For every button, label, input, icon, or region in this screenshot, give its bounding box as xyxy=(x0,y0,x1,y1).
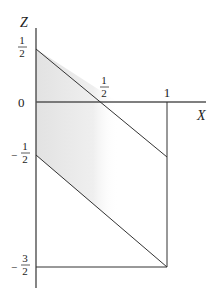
svg-text:2: 2 xyxy=(22,265,28,277)
x-tick-half: 1 2 xyxy=(100,74,109,99)
x-axis-label: X xyxy=(196,108,206,123)
svg-text:2: 2 xyxy=(22,153,28,165)
svg-text:1: 1 xyxy=(19,34,25,46)
x-tick-one: 1 xyxy=(164,85,171,100)
z-axis-label: Z xyxy=(20,15,28,30)
diagram-canvas: Z X 1 2 0 − 1 2 − 3 2 1 2 1 xyxy=(0,0,218,303)
svg-text:1: 1 xyxy=(101,74,107,86)
svg-text:1: 1 xyxy=(22,140,28,152)
z-tick-minus-half: − 1 2 xyxy=(11,140,30,165)
z-tick-minus-three-halves: − 3 2 xyxy=(11,252,30,277)
svg-text:−: − xyxy=(11,149,17,161)
svg-text:2: 2 xyxy=(19,47,25,59)
svg-text:2: 2 xyxy=(101,87,107,99)
z-tick-half: 1 2 xyxy=(18,34,27,59)
svg-text:−: − xyxy=(11,261,17,273)
svg-text:3: 3 xyxy=(22,252,28,264)
z-tick-zero: 0 xyxy=(18,95,25,110)
